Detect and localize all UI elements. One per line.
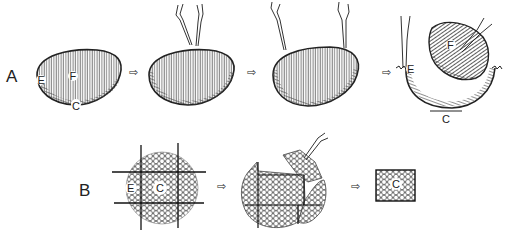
arrow-icon: ⇨ [382,66,391,78]
row-b: B E C ⇨ [79,133,415,230]
arrow-icon: ⇨ [129,66,138,78]
arrow-icon: ⇨ [247,66,256,78]
arrow-icon: ⇨ [351,180,360,192]
label-capsule-c: C [72,100,80,112]
step-b2-peeling [241,133,328,228]
step-b1-capsule-grid: E C [112,143,206,230]
dissection-diagram: A E F C ⇨ ⇨ [0,0,506,233]
arrow-icon: ⇨ [217,180,226,192]
label-capsule-c: C [442,113,450,125]
row-a: A E F C ⇨ ⇨ [6,2,502,125]
step-a4-fiber-removed: F E C [396,16,502,125]
label-epithelium-e: E [38,74,45,86]
label-capsule-c: C [392,178,400,190]
label-epithelium-e: E [127,182,134,194]
row-label-b: B [79,181,90,200]
label-fiber-f: F [447,39,454,51]
step-a2-forceps-grip [149,4,234,105]
forceps-icon [176,4,203,46]
label-fiber-f: F [70,70,77,82]
step-b3-capsule-square: C [376,170,415,201]
label-capsule-c: C [156,182,164,194]
step-a1-intact-eye: E F C [36,50,121,112]
forceps-icon [271,2,349,50]
step-a3-two-forceps [271,2,359,106]
row-label-a: A [6,67,18,86]
label-epithelium-e: E [407,63,414,75]
